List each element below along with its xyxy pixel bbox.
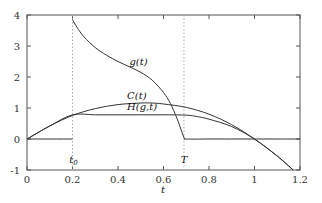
x-tick-label: 0.2 [65, 174, 81, 185]
x-axis-label: t [161, 184, 166, 195]
x-tick-label: 0 [24, 174, 30, 185]
y-tick-label: 1 [14, 103, 20, 114]
plot-area: 00.20.40.60.811.2-101234t0Tg(t)C(t)H(g,t… [10, 10, 308, 186]
x-tick-label: 0.8 [201, 174, 217, 185]
curve-h-g-t-label: H(g,t) [126, 101, 157, 112]
x-tick-label: 1.2 [292, 174, 308, 185]
curve-c-t-label: C(t) [127, 90, 147, 101]
y-tick-label: 2 [14, 72, 20, 83]
y-tick-label: 3 [14, 41, 20, 52]
curve-g-t [73, 20, 301, 140]
curve-h-g-t [27, 114, 293, 170]
curve-c-t [27, 103, 293, 170]
annotation-label: t0 [69, 154, 78, 167]
x-tick-label: 0.4 [110, 174, 126, 185]
y-tick-label: 0 [14, 134, 20, 145]
x-tick-label: 1 [251, 174, 257, 185]
chart: 00.20.40.60.811.2-101234t0Tg(t)C(t)H(g,t… [0, 0, 322, 203]
curve-g-t-label: g(t) [129, 56, 147, 67]
y-tick-label: -1 [10, 165, 20, 176]
annotation-label: T [181, 154, 189, 165]
y-tick-label: 4 [14, 10, 20, 21]
